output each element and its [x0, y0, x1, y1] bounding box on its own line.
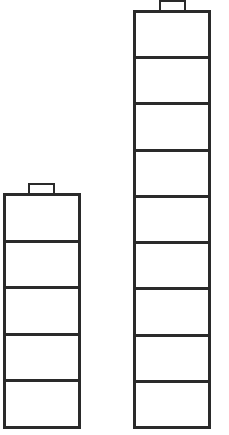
stack-cell — [6, 382, 78, 426]
stack-cell — [136, 13, 208, 59]
stack-cell — [136, 105, 208, 151]
stack-cell — [136, 337, 208, 383]
stack-cell — [136, 198, 208, 244]
stack-cell — [136, 244, 208, 290]
stack-cell — [136, 59, 208, 105]
stack-cell — [136, 152, 208, 198]
short-stack — [3, 193, 81, 429]
stack-cell — [6, 196, 78, 243]
stack-cell — [6, 289, 78, 336]
stack-cell — [6, 243, 78, 290]
stack-cell — [6, 336, 78, 383]
stack-cell — [136, 383, 208, 426]
tall-stack — [133, 10, 211, 429]
stack-cell — [136, 290, 208, 336]
